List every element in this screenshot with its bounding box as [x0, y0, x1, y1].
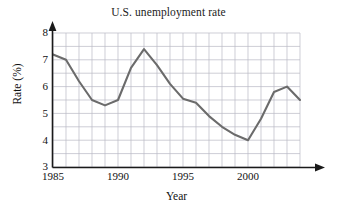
y-axis-arrow: [49, 21, 57, 31]
axes: [0, 0, 337, 214]
x-axis-arrow: [315, 164, 325, 172]
unemployment-rate-chart: U.S. unemployment rate 8 7 6 5 4 3 Rate …: [0, 0, 337, 214]
